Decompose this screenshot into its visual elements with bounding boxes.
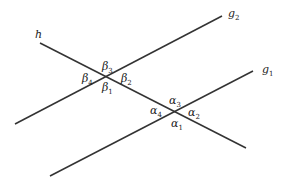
angle-beta4: β4 bbox=[81, 72, 93, 87]
angle-alpha4: α4 bbox=[150, 104, 162, 119]
line-g1 bbox=[50, 71, 253, 176]
angle-alpha1: α1 bbox=[171, 117, 183, 132]
label-h: h bbox=[35, 28, 42, 41]
angle-beta2: β2 bbox=[120, 72, 132, 87]
angle-alpha2: α2 bbox=[188, 106, 200, 121]
angle-beta3: β3 bbox=[101, 60, 113, 75]
angle-beta1: β1 bbox=[101, 81, 113, 96]
label-g2: g2 bbox=[228, 7, 240, 22]
label-g1: g1 bbox=[262, 63, 274, 78]
diagram-canvas: h g2 g1 β3 β4 β2 β1 α3 α4 α2 α1 bbox=[0, 0, 282, 187]
angle-alpha3: α3 bbox=[169, 94, 181, 109]
